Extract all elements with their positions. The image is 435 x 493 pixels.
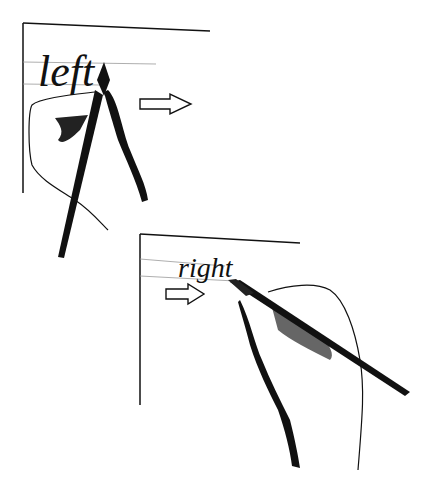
pen-barrel — [58, 90, 103, 258]
pen-barrel — [230, 280, 410, 396]
word-right: right — [178, 252, 234, 283]
word-left: left — [38, 47, 96, 96]
arrow-right-outline-icon — [140, 94, 191, 114]
hand-shading — [55, 115, 88, 142]
calligraphy-illustration: left right — [0, 0, 435, 493]
arrow-right-outline-icon — [166, 284, 204, 304]
paper-top-edge — [140, 234, 300, 243]
top-panel: left — [23, 23, 210, 258]
paper-top-edge — [23, 23, 210, 31]
bottom-panel: right — [140, 234, 410, 470]
